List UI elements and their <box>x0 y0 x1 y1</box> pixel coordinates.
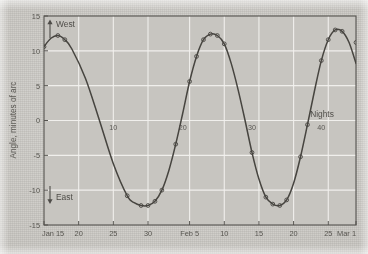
y-tick-label: 15 <box>32 12 40 21</box>
x-tick-label: Feb 5 <box>180 229 199 238</box>
x-tick-label: 20 <box>289 229 297 238</box>
y-tick-label: -5 <box>33 151 40 160</box>
x-tick-label: 20 <box>75 229 83 238</box>
x-tick-label: 25 <box>324 229 332 238</box>
y-tick-label: -15 <box>29 221 40 230</box>
x-tick-label: Jan 15 <box>42 229 64 238</box>
y-tick-label: 10 <box>32 47 40 56</box>
x-tick-label: 15 <box>255 229 263 238</box>
east-label: East <box>56 192 73 202</box>
y-tick-label: 0 <box>36 116 40 125</box>
x-tick-label: Mar 1 <box>337 229 356 238</box>
screenshot-root: 151050-5-10-15 Jan 15202530Feb 510152025… <box>0 0 368 254</box>
x-tick-label: 10 <box>220 229 228 238</box>
west-label: West <box>56 19 76 29</box>
nights-value-label: 40 <box>317 123 325 132</box>
y-tick-label: 5 <box>36 82 40 91</box>
nights-label: Nights <box>310 109 334 119</box>
nights-value-label: 30 <box>248 123 256 132</box>
nights-value-label: 10 <box>109 123 117 132</box>
y-axis-title: Angle, minutes of arc <box>9 82 18 159</box>
chart-figure: 151050-5-10-15 Jan 15202530Feb 510152025… <box>0 0 368 254</box>
x-tick-label: 25 <box>109 229 117 238</box>
y-tick-label: -10 <box>29 186 40 195</box>
x-tick-label: 30 <box>144 229 152 238</box>
